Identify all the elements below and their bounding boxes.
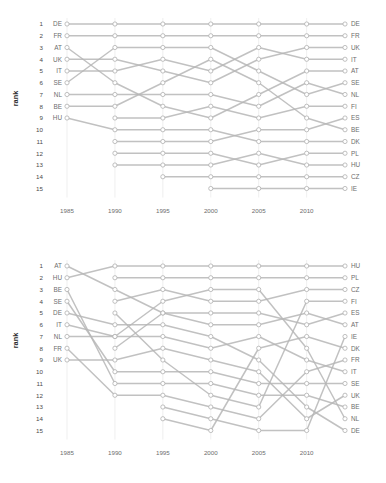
series-node-UK <box>257 370 261 374</box>
series-node-FI <box>113 311 117 315</box>
series-node-DE <box>305 22 309 26</box>
right-label: SE <box>351 79 360 86</box>
series-node-DE <box>209 334 213 338</box>
rank-number: 4 <box>40 298 44 305</box>
right-label: NL <box>351 415 360 422</box>
series-node-IE <box>257 428 261 432</box>
series-node-BE <box>113 104 117 108</box>
series-node-UK <box>209 358 213 362</box>
series-node-HU <box>305 139 309 143</box>
series-node-DE <box>257 22 261 26</box>
series-node-FR <box>65 34 69 38</box>
series-node-ES <box>305 323 309 327</box>
series-node-SE <box>113 45 117 49</box>
rank-numbers-group: 123456789101112131415 <box>36 20 43 192</box>
series-node-HU <box>305 264 309 268</box>
series-node-PL <box>161 276 165 280</box>
series-node-FI <box>305 299 309 303</box>
chart-svg-top: rank123456789101112131415DEFRATUKITSENLB… <box>0 0 386 241</box>
chart-panel-bottom: rank123456789101112131415ATHUBESEDEITNLF… <box>0 242 386 483</box>
series-node-NL <box>209 92 213 96</box>
series-node-DK <box>257 163 261 167</box>
series-node-FR <box>113 34 117 38</box>
left-label: UK <box>53 356 63 363</box>
right-label: DK <box>351 138 361 145</box>
x-tick-label: 2010 <box>300 207 314 214</box>
series-node-IE <box>209 186 213 190</box>
series-node-ES <box>209 311 213 315</box>
series-node-NL <box>113 92 117 96</box>
series-node-FR <box>161 393 165 397</box>
series-node-BE <box>113 381 117 385</box>
series-node-PL <box>209 163 213 167</box>
series-node-NL <box>343 417 347 421</box>
series-node-DE <box>113 323 117 327</box>
series-node-IE <box>257 186 261 190</box>
series-node-NL <box>257 287 261 291</box>
left-label: NL <box>54 91 63 98</box>
series-node-PL <box>257 276 261 280</box>
series-node-BE <box>161 81 165 85</box>
rank-number: 6 <box>40 321 44 328</box>
series-node-DK <box>305 151 309 155</box>
series-node-IT <box>161 334 165 338</box>
series-node-UK <box>113 57 117 61</box>
series-node-BE <box>209 381 213 385</box>
left-label: HU <box>53 274 63 281</box>
series-node-CZ <box>343 287 347 291</box>
series-node-PL <box>343 163 347 167</box>
series-node-FR <box>343 358 347 362</box>
series-node-IT <box>65 69 69 73</box>
rank-number: 2 <box>40 32 44 39</box>
right-label: BE <box>351 403 360 410</box>
right-labels-group: DEFRUKITATSENLFIESBEDKPLHUCZIE <box>351 20 361 192</box>
series-node-IT <box>65 323 69 327</box>
series-node-AT <box>257 92 261 96</box>
series-node-CZ <box>305 175 309 179</box>
series-node-FI <box>257 116 261 120</box>
series-node-DK <box>161 417 165 421</box>
x-tick-label: 2005 <box>252 207 266 214</box>
series-node-FI <box>343 104 347 108</box>
left-label: BE <box>53 286 62 293</box>
series-node-PL <box>305 163 309 167</box>
series-node-AT <box>343 69 347 73</box>
series-node-AT <box>209 116 213 120</box>
rank-number: 13 <box>36 161 43 168</box>
series-node-DE <box>343 428 347 432</box>
series-node-SE <box>113 370 117 374</box>
left-label: IT <box>56 67 62 74</box>
series-node-CZ <box>257 175 261 179</box>
rank-number: 12 <box>36 392 43 399</box>
series-node-DK <box>161 151 165 155</box>
series-node-ES <box>161 311 165 315</box>
series-node-ES <box>343 311 347 315</box>
rank-number: 6 <box>40 79 44 86</box>
rank-number: 15 <box>36 427 43 434</box>
series-node-FR <box>209 34 213 38</box>
right-label: IT <box>351 368 357 375</box>
y-axis-title: rank <box>11 332 20 349</box>
series-node-AT <box>65 264 69 268</box>
series-node-DE <box>209 22 213 26</box>
series-node-UK <box>209 81 213 85</box>
series-node-SE <box>257 69 261 73</box>
series-node-DE <box>113 22 117 26</box>
right-label: IE <box>351 333 357 340</box>
series-node-AT <box>113 81 117 85</box>
series-node-FR <box>343 34 347 38</box>
x-tick-label: 1985 <box>60 449 74 456</box>
series-node-FI <box>305 104 309 108</box>
series-node-BE <box>65 104 69 108</box>
rank-number: 8 <box>40 103 44 110</box>
right-label: IE <box>351 185 357 192</box>
rank-number: 12 <box>36 150 43 157</box>
series-node-FI <box>161 358 165 362</box>
left-label: SE <box>53 298 62 305</box>
series-node-ES <box>257 128 261 132</box>
series-node-BE <box>343 405 347 409</box>
left-label: SE <box>53 79 62 86</box>
series-node-UK <box>161 346 165 350</box>
series-node-NL <box>209 287 213 291</box>
series-node-CZ <box>343 175 347 179</box>
